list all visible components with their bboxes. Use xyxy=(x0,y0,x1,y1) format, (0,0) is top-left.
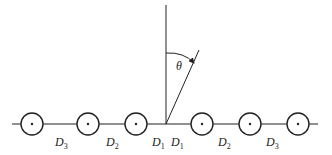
array-diagram: D3D2D1D1D2D3 θ xyxy=(0,0,332,155)
array-element xyxy=(77,113,99,135)
array-element xyxy=(21,113,43,135)
spacing-label: D2 xyxy=(217,135,231,151)
element-center-dot-icon xyxy=(135,123,137,125)
diagram-lines xyxy=(12,5,318,124)
element-center-dot-icon xyxy=(31,123,33,125)
observation-direction-line xyxy=(166,50,199,124)
spacing-label: D2 xyxy=(105,135,119,151)
spacing-label: D3 xyxy=(265,135,279,151)
element-center-dot-icon xyxy=(201,123,203,125)
array-element xyxy=(191,113,213,135)
spacing-labels: D3D2D1D1D2D3 xyxy=(54,135,279,151)
theta-label: θ xyxy=(176,59,182,73)
spacing-label: D1 xyxy=(151,135,165,151)
spacing-label: D3 xyxy=(54,135,68,151)
spacing-label: D1 xyxy=(170,135,184,151)
array-element xyxy=(239,113,261,135)
element-center-dot-icon xyxy=(87,123,89,125)
element-center-dot-icon xyxy=(297,123,299,125)
array-element xyxy=(125,113,147,135)
array-element xyxy=(287,113,309,135)
element-center-dot-icon xyxy=(249,123,251,125)
